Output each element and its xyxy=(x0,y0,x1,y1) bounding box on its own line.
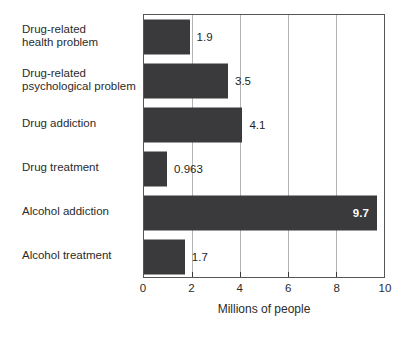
category-label-line: Drug-related xyxy=(22,67,140,81)
bar xyxy=(144,20,190,55)
category-label-line: Drug-related xyxy=(22,23,140,37)
bar-row: 3.5 xyxy=(144,59,384,103)
category-label-line: psychological problem xyxy=(22,80,140,94)
bar-row: 1.7 xyxy=(144,235,384,279)
x-axis-tick-labels: 0246810 xyxy=(143,282,385,296)
bar-chart: Drug-relatedhealth problemDrug-relatedps… xyxy=(0,0,410,337)
x-axis-tick-mark xyxy=(288,272,289,277)
category-label-line: Alcohol addiction xyxy=(22,205,140,219)
category-label: Drug treatment xyxy=(0,146,140,190)
value-label: 1.9 xyxy=(197,31,213,43)
category-label: Alcohol treatment xyxy=(0,234,140,278)
bar xyxy=(144,152,167,187)
category-label: Drug-relatedhealth problem xyxy=(0,14,140,58)
plot-area: 1.93.54.10.9639.71.7 xyxy=(143,14,385,278)
bar-chart-screenshot: Drug-relatedhealth problemDrug-relatedps… xyxy=(0,0,410,337)
bar-row: 4.1 xyxy=(144,103,384,147)
value-label: 0.963 xyxy=(174,163,203,175)
x-axis-tick-label: 0 xyxy=(140,282,146,294)
bar xyxy=(144,108,242,143)
x-axis-title: Millions of people xyxy=(143,302,385,316)
category-axis-labels: Drug-relatedhealth problemDrug-relatedps… xyxy=(0,14,140,278)
category-label-line: health problem xyxy=(22,36,140,50)
x-axis-tick-label: 8 xyxy=(333,282,339,294)
bar xyxy=(144,196,377,231)
x-axis-tick-label: 6 xyxy=(285,282,291,294)
value-label: 9.7 xyxy=(353,207,369,219)
value-label: 4.1 xyxy=(249,119,265,131)
category-label: Drug addiction xyxy=(0,102,140,146)
bar-row: 9.7 xyxy=(144,191,384,235)
bar-row: 0.963 xyxy=(144,147,384,191)
category-label-line: Drug addiction xyxy=(22,117,140,131)
category-label: Alcohol addiction xyxy=(0,190,140,234)
x-axis-tick-label: 10 xyxy=(379,282,392,294)
x-axis-tick-label: 2 xyxy=(188,282,194,294)
x-axis-tick-label: 4 xyxy=(237,282,243,294)
x-axis-tick-mark xyxy=(336,272,337,277)
bar-row: 1.9 xyxy=(144,15,384,59)
bar xyxy=(144,64,228,99)
category-label: Drug-relatedpsychological problem xyxy=(0,58,140,102)
x-axis-tick-mark xyxy=(192,272,193,277)
category-label-line: Drug treatment xyxy=(22,161,140,175)
category-label-line: Alcohol treatment xyxy=(22,249,140,263)
x-axis-tick-mark xyxy=(240,272,241,277)
bar xyxy=(144,240,185,275)
value-label: 3.5 xyxy=(235,75,251,87)
value-label: 1.7 xyxy=(192,251,208,263)
